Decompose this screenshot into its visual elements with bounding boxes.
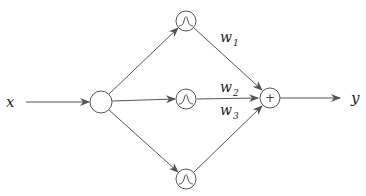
input-label: x bbox=[6, 93, 15, 111]
output-label: y bbox=[350, 89, 360, 107]
edge-input-to-gaussian-2 bbox=[112, 99, 175, 101]
plus-icon: + bbox=[265, 91, 275, 105]
gaussian-node-1 bbox=[176, 11, 196, 31]
gaussian-node-2 bbox=[176, 89, 196, 109]
svg-text:w1: w1 bbox=[220, 29, 239, 48]
weight-label-2: w2 bbox=[220, 79, 239, 98]
gaussian-node-3 bbox=[176, 169, 196, 189]
weight-label-1: w1 bbox=[220, 29, 239, 48]
edge-input-to-gaussian-1 bbox=[109, 28, 178, 94]
rbf-network-diagram: x w1 w2 w3 + y bbox=[0, 0, 366, 196]
edge-input-to-gaussian-3 bbox=[109, 110, 178, 172]
svg-text:w2: w2 bbox=[220, 79, 239, 98]
weight-label-3: w3 bbox=[220, 102, 239, 121]
svg-text:w3: w3 bbox=[220, 102, 239, 121]
sum-node: + bbox=[260, 88, 280, 108]
input-node bbox=[90, 91, 112, 113]
edge-gaussian-2-to-sum bbox=[197, 98, 258, 99]
